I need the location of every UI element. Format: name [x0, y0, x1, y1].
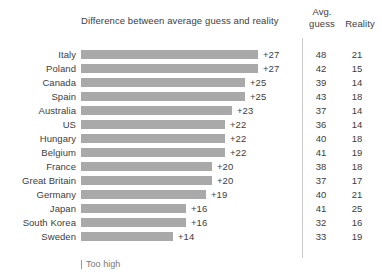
table-row: Japan+164125 — [0, 202, 382, 216]
bar-track — [81, 134, 281, 143]
chart-root: Difference between average guess and rea… — [0, 0, 382, 277]
bar — [81, 106, 232, 115]
bar-track — [81, 218, 281, 227]
cell-reality: 18 — [341, 133, 373, 144]
bar-value-label: +27 — [263, 49, 279, 60]
page-title: Difference between average guess and rea… — [81, 15, 279, 26]
bar-value-label: +25 — [250, 77, 266, 88]
cell-avg-guess: 48 — [305, 49, 337, 60]
country-label: Japan — [50, 203, 76, 214]
table-row: Great Britain+203717 — [0, 174, 382, 188]
bar-track — [81, 64, 281, 73]
cell-reality: 21 — [341, 49, 373, 60]
bar — [81, 218, 186, 227]
country-label: Australia — [39, 105, 76, 116]
bar-value-label: +19 — [211, 189, 227, 200]
cell-reality: 14 — [341, 77, 373, 88]
legend: Too high — [81, 259, 120, 269]
bar-track — [81, 176, 281, 185]
bar-track — [81, 120, 281, 129]
column-header-reality: Reality — [340, 18, 380, 29]
chart-header: Difference between average guess and rea… — [0, 0, 382, 38]
cell-reality: 16 — [341, 217, 373, 228]
table-row: France+203818 — [0, 160, 382, 174]
bar — [81, 232, 173, 241]
cell-avg-guess: 42 — [305, 63, 337, 74]
country-label: Sweden — [41, 231, 76, 242]
bar-value-label: +20 — [217, 161, 233, 172]
bar-value-label: +16 — [191, 217, 207, 228]
column-header-avg-guess-line1: Avg. — [305, 6, 339, 17]
bar-track — [81, 50, 281, 59]
cell-reality: 17 — [341, 175, 373, 186]
table-row: Australia+233714 — [0, 104, 382, 118]
bar-value-label: +22 — [230, 133, 246, 144]
bar — [81, 134, 225, 143]
country-label: Spain — [51, 91, 76, 102]
chart-rows: Italy+274821Poland+274215Canada+253914Sp… — [0, 48, 382, 244]
bar — [81, 176, 212, 185]
table-row: Italy+274821 — [0, 48, 382, 62]
cell-avg-guess: 41 — [305, 147, 337, 158]
country-label: South Korea — [23, 217, 76, 228]
table-row: Canada+253914 — [0, 76, 382, 90]
cell-avg-guess: 40 — [305, 189, 337, 200]
country-label: Belgium — [41, 147, 76, 158]
bar — [81, 50, 258, 59]
country-label: Germany — [37, 189, 76, 200]
bar-track — [81, 148, 281, 157]
country-label: Poland — [46, 63, 76, 74]
bar — [81, 64, 258, 73]
bar — [81, 162, 212, 171]
bar-track — [81, 162, 281, 171]
table-row: Spain+254318 — [0, 90, 382, 104]
cell-reality: 21 — [341, 189, 373, 200]
legend-label-too-high: Too high — [86, 259, 120, 269]
cell-avg-guess: 33 — [305, 231, 337, 242]
legend-tick-icon — [81, 260, 82, 269]
cell-avg-guess: 37 — [305, 105, 337, 116]
bar — [81, 78, 245, 87]
country-label: France — [46, 161, 76, 172]
bar-value-label: +20 — [217, 175, 233, 186]
bar — [81, 148, 225, 157]
table-row: Hungary+224018 — [0, 132, 382, 146]
cell-avg-guess: 38 — [305, 161, 337, 172]
cell-reality: 14 — [341, 105, 373, 116]
table-row: South Korea+163216 — [0, 216, 382, 230]
cell-reality: 15 — [341, 63, 373, 74]
bar — [81, 120, 225, 129]
cell-reality: 14 — [341, 119, 373, 130]
bar — [81, 92, 245, 101]
cell-avg-guess: 32 — [305, 217, 337, 228]
bar-value-label: +25 — [250, 91, 266, 102]
bar-track — [81, 190, 281, 199]
country-label: Canada — [42, 77, 76, 88]
bar-value-label: +22 — [230, 119, 246, 130]
table-row: Germany+194021 — [0, 188, 382, 202]
bar-value-label: +22 — [230, 147, 246, 158]
country-label: Hungary — [40, 133, 76, 144]
cell-avg-guess: 37 — [305, 175, 337, 186]
table-row: US+223614 — [0, 118, 382, 132]
country-label: Italy — [58, 49, 76, 60]
cell-avg-guess: 39 — [305, 77, 337, 88]
cell-avg-guess: 36 — [305, 119, 337, 130]
cell-reality: 25 — [341, 203, 373, 214]
table-row: Sweden+143319 — [0, 230, 382, 244]
bar-value-label: +27 — [263, 63, 279, 74]
table-row: Belgium+224119 — [0, 146, 382, 160]
country-label: US — [63, 119, 76, 130]
country-label: Great Britain — [22, 175, 76, 186]
cell-avg-guess: 40 — [305, 133, 337, 144]
cell-reality: 19 — [341, 231, 373, 242]
column-header-avg-guess-line2: guess — [304, 18, 340, 29]
bar — [81, 204, 186, 213]
cell-reality: 18 — [341, 161, 373, 172]
cell-reality: 19 — [341, 147, 373, 158]
table-row: Poland+274215 — [0, 62, 382, 76]
bar-value-label: +14 — [178, 231, 194, 242]
bar-value-label: +16 — [191, 203, 207, 214]
bar-value-label: +23 — [237, 105, 253, 116]
cell-avg-guess: 41 — [305, 203, 337, 214]
